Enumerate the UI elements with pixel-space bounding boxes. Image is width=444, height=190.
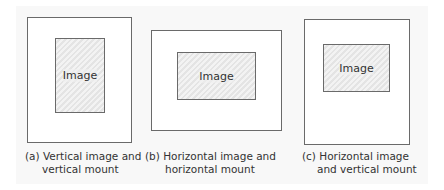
- image-a-vertical: Image: [55, 38, 105, 113]
- caption-line: horizontal mount: [145, 163, 276, 176]
- image-c-horizontal: Image: [323, 44, 390, 92]
- caption-line: and vertical mount: [302, 163, 417, 176]
- caption-c: (c) Horizontal image and vertical mount: [302, 150, 417, 176]
- caption-line: (a) Vertical image and: [25, 150, 141, 163]
- image-label: Image: [199, 70, 233, 83]
- caption-line: vertical mount: [25, 163, 141, 176]
- image-label: Image: [339, 62, 373, 75]
- image-label: Image: [63, 69, 97, 82]
- image-b-horizontal: Image: [177, 52, 256, 100]
- caption-b: (b) Horizontal image and horizontal moun…: [145, 150, 276, 176]
- caption-line: (c) Horizontal image: [302, 150, 417, 163]
- caption-line: (b) Horizontal image and: [145, 150, 276, 163]
- caption-a: (a) Vertical image and vertical mount: [25, 150, 141, 176]
